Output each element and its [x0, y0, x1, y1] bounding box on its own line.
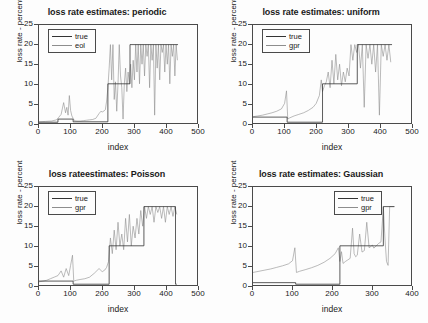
legend-item-gpr: gpr: [338, 203, 377, 212]
y-tick-mark: [34, 226, 38, 227]
x-tick-mark: [380, 124, 381, 128]
x-axis-label: index: [38, 304, 198, 314]
x-tick-mark: [134, 124, 135, 128]
y-tick-mark: [34, 44, 38, 45]
y-tick-mark: [34, 206, 38, 207]
legend-line-icon: [52, 36, 72, 37]
series-line-true: [39, 45, 178, 123]
legend-item-gpr: gpr: [52, 203, 91, 212]
panel-title: loss rate estimates: uniform: [214, 7, 428, 17]
series-line-gpr: [253, 45, 391, 119]
x-tick-mark: [284, 124, 285, 128]
y-tick-mark: [248, 186, 252, 187]
panel-title: loss rateestimates: Poisson: [0, 169, 214, 179]
y-tick-label: 15: [5, 59, 33, 68]
y-tick-mark: [248, 84, 252, 85]
series-canvas: [253, 187, 411, 285]
figure-canvas: loss rate estimates: periodic loss rate …: [0, 0, 428, 323]
x-tick-label: 300: [357, 289, 387, 298]
x-tick-label: 0: [23, 127, 53, 136]
x-tick-mark: [134, 286, 135, 290]
legend-label: true: [75, 32, 91, 41]
y-tick-mark: [248, 64, 252, 65]
x-tick-label: 100: [55, 289, 85, 298]
x-tick-label: 400: [151, 289, 181, 298]
x-tick-label: 0: [23, 289, 53, 298]
x-tick-label: 500: [397, 127, 427, 136]
x-tick-label: 200: [87, 289, 117, 298]
y-tick-mark: [248, 226, 252, 227]
legend-item-true: true: [52, 194, 91, 203]
x-tick-mark: [102, 124, 103, 128]
legend-item-true: true: [338, 194, 377, 203]
y-tick-label: 5: [219, 99, 247, 108]
x-tick-label: 500: [183, 127, 213, 136]
y-tick-mark: [248, 266, 252, 267]
x-tick-mark: [412, 124, 413, 128]
y-tick-mark: [248, 246, 252, 247]
legend[interactable]: trueeol: [48, 29, 96, 53]
y-tick-mark: [248, 206, 252, 207]
y-tick-label: 10: [5, 241, 33, 250]
x-tick-label: 0: [237, 289, 267, 298]
legend-line-icon: [338, 207, 358, 208]
x-tick-label: 200: [87, 127, 117, 136]
y-tick-mark: [34, 186, 38, 187]
legend-label: gpr: [75, 203, 91, 212]
legend[interactable]: truegpr: [334, 191, 382, 215]
y-tick-mark: [34, 246, 38, 247]
x-axis-label: index: [38, 142, 198, 152]
y-tick-mark: [34, 104, 38, 105]
x-tick-label: 500: [183, 289, 213, 298]
legend-item-eol: eol: [52, 41, 91, 50]
chart-panel-gaussian: loss rate estimates: Gaussian loss rate …: [214, 162, 428, 323]
legend-line-icon: [52, 198, 72, 199]
y-tick-label: 25: [219, 181, 247, 190]
chart-panel-uniform: loss rate estimates: uniform loss rate -…: [214, 0, 428, 161]
legend[interactable]: truegpr: [262, 29, 310, 53]
legend-line-icon: [266, 45, 286, 46]
legend-label: true: [289, 32, 305, 41]
y-tick-label: 10: [5, 79, 33, 88]
x-tick-label: 400: [365, 127, 395, 136]
y-tick-label: 20: [219, 201, 247, 210]
y-tick-mark: [248, 44, 252, 45]
x-tick-mark: [412, 286, 413, 290]
plot-area: [252, 186, 412, 286]
legend-label: true: [361, 194, 377, 203]
x-tick-mark: [316, 124, 317, 128]
legend[interactable]: truegpr: [48, 191, 96, 215]
x-tick-mark: [70, 286, 71, 290]
x-tick-mark: [292, 286, 293, 290]
y-axis-label: loss rate - percent: [229, 133, 238, 253]
y-axis-label: loss rate - percent: [15, 133, 24, 253]
legend-line-icon: [52, 45, 72, 46]
x-tick-label: 300: [119, 127, 149, 136]
x-tick-label: 100: [55, 127, 85, 136]
series-line-gpr: [39, 207, 177, 282]
x-tick-label: 300: [333, 127, 363, 136]
x-tick-label: 300: [119, 289, 149, 298]
chart-panel-periodic: loss rate estimates: periodic loss rate …: [0, 0, 214, 161]
x-tick-label: 0: [237, 127, 267, 136]
y-tick-label: 25: [5, 181, 33, 190]
x-tick-mark: [70, 124, 71, 128]
x-tick-label: 100: [277, 289, 307, 298]
x-tick-label: 200: [301, 127, 331, 136]
y-tick-mark: [34, 266, 38, 267]
y-tick-mark: [34, 64, 38, 65]
y-tick-mark: [248, 104, 252, 105]
x-tick-label: 100: [269, 127, 299, 136]
x-axis-label: index: [252, 304, 412, 314]
legend-label: eol: [75, 41, 91, 50]
y-tick-label: 5: [5, 99, 33, 108]
y-tick-label: 25: [5, 19, 33, 28]
y-tick-label: 20: [5, 201, 33, 210]
panel-title: loss rate estimates: Gaussian: [214, 169, 428, 179]
x-axis-label: index: [252, 142, 412, 152]
legend-label: gpr: [289, 41, 305, 50]
series-line-true: [253, 207, 394, 285]
legend-item-true: true: [266, 32, 305, 41]
x-tick-label: 400: [397, 289, 427, 298]
y-tick-label: 15: [5, 221, 33, 230]
